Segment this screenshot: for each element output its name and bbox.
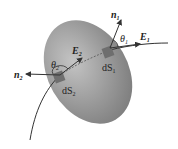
- flux-diagram: n1 θ1 E1 dS1 E2 θ2 n2 dS2: [0, 0, 178, 149]
- closed-surface: [26, 4, 150, 139]
- label-E1: E1: [139, 31, 150, 43]
- label-theta1: θ1: [120, 33, 128, 45]
- label-n2: n2: [14, 69, 23, 81]
- label-n1: n1: [111, 9, 120, 21]
